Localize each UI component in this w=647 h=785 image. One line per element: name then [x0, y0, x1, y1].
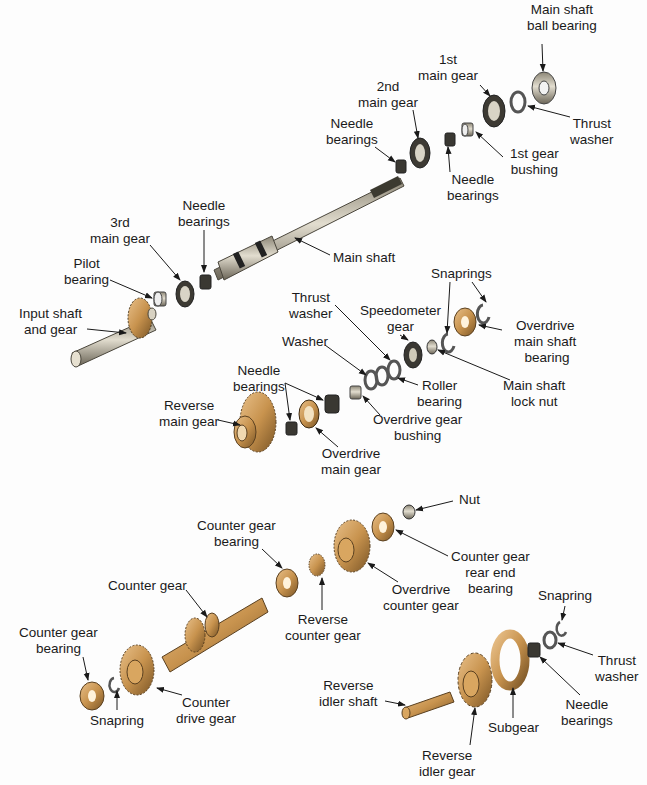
label-counter-drive-gear: Counter drive gear: [176, 695, 236, 727]
exploded-gear-diagram: Main shaft ball bearing1st main gear2nd …: [0, 0, 647, 785]
label-main-shaft: Main shaft: [333, 250, 395, 266]
subgear: [495, 634, 525, 686]
2nd-main-gear: [410, 138, 430, 168]
overdrive-main-shaft-bearing: [454, 308, 476, 336]
3rd-main-gear: [176, 281, 194, 307]
snapring-right: [557, 622, 566, 636]
label-main-shaft-ball-bearing: Main shaft ball bearing: [527, 2, 597, 34]
counter-drive-gear: [120, 645, 154, 695]
label-nut: Nut: [459, 492, 480, 508]
label-reverse-counter-gear: Reverse counter gear: [285, 612, 361, 644]
label-pilot-bearing: Pilot bearing: [64, 256, 109, 288]
label-subgear: Subgear: [488, 720, 539, 736]
snapring-2: [477, 305, 489, 323]
label-counter-gear-bearing-top: Counter gear bearing: [197, 518, 276, 550]
overdrive-counter-gear: [334, 520, 370, 572]
label-counter-gear-rear-end-bearing: Counter gear rear end bearing: [451, 549, 530, 597]
label-needle-bearings-top-mid: Needle bearings: [447, 172, 499, 204]
reverse-idler-gear: [458, 653, 492, 707]
washers-and-roller-bearing: [365, 361, 400, 389]
label-snapring-right: Snapring: [538, 588, 592, 604]
label-2nd-main-gear: 2nd main gear: [358, 79, 418, 111]
snapring-1: [442, 334, 454, 352]
main-shaft-ball-bearing: [532, 72, 556, 104]
label-overdrive-gear-bushing: Overdrive gear bushing: [373, 412, 462, 444]
thrust-washer-top: [511, 92, 525, 112]
1st-gear-bushing: [462, 123, 473, 136]
label-washer: Washer: [282, 334, 328, 350]
1st-main-gear: [483, 95, 505, 127]
speedometer-gear: [404, 342, 422, 368]
label-needle-bearings-3rd: Needle bearings: [178, 198, 230, 230]
label-main-shaft-lock-nut: Main shaft lock nut: [503, 378, 565, 410]
label-overdrive-counter-gear: Overdrive counter gear: [383, 582, 459, 614]
overdrive-main-gear: [299, 400, 319, 428]
label-thrust-washer-bottom: Thrust washer: [595, 653, 639, 685]
label-thrust-washer-mid: Thrust washer: [289, 290, 333, 322]
needle-bearings-top-left: [396, 160, 406, 173]
needle-bearings-mid-2: [325, 395, 339, 413]
label-reverse-idler-shaft: Reverse idler shaft: [319, 678, 378, 710]
label-reverse-idler-gear: Reverse idler gear: [419, 748, 475, 780]
needle-bearings-bottom: [528, 643, 540, 657]
main-shaft-lock-nut: [427, 340, 437, 354]
label-reverse-main-gear: Reverse main gear: [159, 398, 219, 430]
reverse-idler-shaft: [402, 692, 454, 719]
label-needle-bearings-top-left: Needle bearings: [326, 116, 378, 148]
counter-gear-rear-end-bearing: [372, 513, 394, 541]
label-overdrive-main-gear: Overdrive main gear: [321, 446, 381, 478]
snapring-left: [109, 678, 119, 692]
label-1st-gear-bushing: 1st gear bushing: [510, 146, 559, 178]
label-thrust-washer-top: Thrust washer: [570, 116, 614, 148]
needle-bearings-mid-1: [286, 422, 297, 435]
overdrive-gear-bushing: [350, 386, 361, 399]
label-counter-gear-bearing-left: Counter gear bearing: [19, 625, 98, 657]
thrust-washer-bottom: [544, 632, 556, 648]
pilot-bearing: [154, 292, 166, 306]
counter-gear-bearing-left: [80, 682, 104, 710]
label-overdrive-main-shaft-bearing: Overdrive main shaft bearing: [514, 318, 576, 366]
nut: [403, 505, 415, 519]
input-shaft-and-gear: [71, 298, 156, 367]
label-input-shaft-and-gear: Input shaft and gear: [19, 306, 82, 338]
label-snaprings: Snaprings: [431, 266, 492, 282]
label-counter-gear: Counter gear: [108, 578, 187, 594]
label-needle-bearings-bottom: Needle bearings: [561, 697, 613, 729]
label-speedometer-gear: Speedometer gear: [360, 303, 441, 335]
needle-bearings-top-mid: [445, 133, 455, 146]
label-3rd-main-gear: 3rd main gear: [90, 215, 150, 247]
reverse-counter-gear: [309, 554, 325, 576]
label-roller-bearing: Roller bearing: [417, 378, 462, 410]
counter-gear-bearing-top: [276, 569, 298, 597]
label-snapring-left: Snapring: [90, 713, 144, 729]
counter-gear: [162, 598, 268, 672]
label-needle-bearings-mid: Needle bearings: [233, 363, 285, 395]
needle-bearings-3rd: [200, 275, 211, 289]
reverse-main-gear: [234, 392, 276, 452]
label-1st-main-gear: 1st main gear: [418, 52, 478, 84]
